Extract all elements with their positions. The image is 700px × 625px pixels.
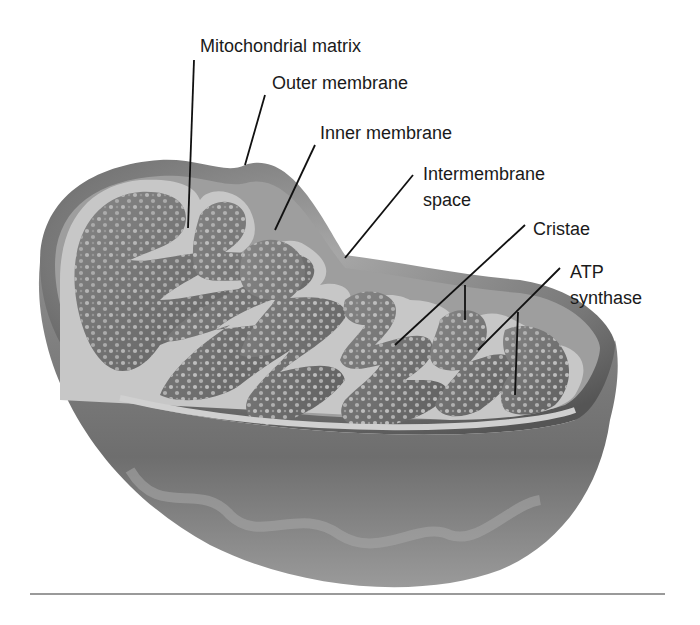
label-outer-membrane: Outer membrane: [272, 72, 408, 94]
leader-intermembrane: [345, 175, 413, 258]
label-cristae: Cristae: [533, 218, 590, 240]
mitochondrion-diagram: Mitochondrial matrix Outer membrane Inne…: [0, 0, 700, 625]
label-atp-synthase: ATP synthase: [570, 261, 642, 309]
label-inner-membrane: Inner membrane: [320, 122, 452, 144]
label-intermembrane-space: Intermembrane space: [423, 163, 545, 211]
label-intermembrane-line1: Intermembrane: [423, 163, 545, 185]
label-atp-line2: synthase: [570, 287, 642, 309]
leader-outer-membrane: [245, 95, 265, 165]
label-intermembrane-line2: space: [423, 189, 545, 211]
label-atp-line1: ATP: [570, 261, 642, 283]
label-mitochondrial-matrix: Mitochondrial matrix: [200, 35, 361, 57]
